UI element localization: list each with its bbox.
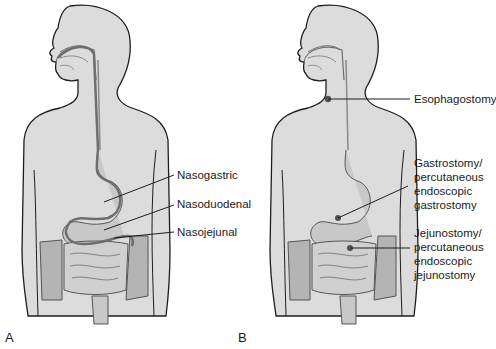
panel-a-body [22,5,170,324]
label-nasogastric: Nasogastric [177,168,238,182]
label-gastrostomy: Gastrostomy/ percutaneous endoscopic gas… [414,156,484,212]
panel-b-body [270,5,418,324]
label-nasojejunal: Nasojejunal [177,225,237,239]
label-nasoduodenal: Nasoduodenal [177,197,251,211]
panel-letter-b: B [238,330,247,345]
label-jejunostomy: Jejunostomy/ percutaneous endoscopic jej… [414,226,484,282]
panel-letter-a: A [5,330,14,345]
label-esophagostomy: Esophagostomy [414,92,496,106]
